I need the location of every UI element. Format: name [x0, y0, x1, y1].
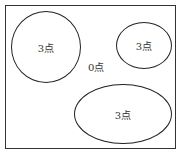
top-right-ellipse-label: 3点 — [136, 38, 152, 53]
outside-label: 0点 — [88, 59, 104, 74]
bottom-ellipse-label: 3点 — [115, 107, 131, 122]
left-circle-region: 3点 — [11, 11, 81, 83]
bottom-ellipse-region: 3点 — [74, 84, 172, 144]
top-right-ellipse-region: 3点 — [116, 22, 172, 69]
left-circle-label: 3点 — [38, 40, 54, 55]
